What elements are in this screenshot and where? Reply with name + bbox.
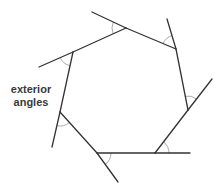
exterior-angle-arc	[60, 58, 70, 66]
edge-extension	[52, 112, 60, 147]
edge-extension	[167, 19, 176, 49]
polygon-edge	[126, 28, 176, 49]
polygon-edge	[73, 28, 126, 52]
angle-arcs	[57, 22, 197, 164]
polygon-edge	[155, 110, 188, 153]
polygon-edges	[60, 28, 188, 153]
exterior-angle-arc	[185, 96, 196, 99]
exterior-angles-label: exterior angles	[8, 83, 54, 109]
edge-extension	[92, 12, 126, 28]
exterior-angle-arc	[163, 36, 172, 44]
edge-extension	[97, 153, 118, 182]
exterior-angle-arc	[105, 153, 111, 164]
exterior-angle-arc	[57, 122, 69, 126]
edge-extension	[188, 79, 212, 110]
label-line-2: angles	[8, 96, 54, 109]
exterior-angle-arc	[112, 22, 113, 34]
exterior-angle-arc	[164, 142, 169, 153]
polygon-edge	[176, 49, 188, 110]
label-line-1: exterior	[8, 83, 54, 96]
polygon-edge	[60, 112, 97, 153]
